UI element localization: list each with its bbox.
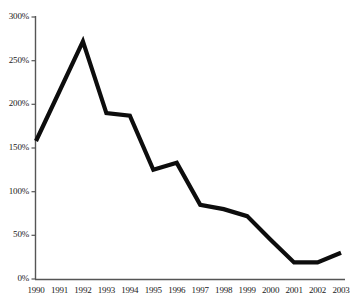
data-series-line: [36, 41, 341, 262]
y-axis-tick-label: 100%: [0, 187, 29, 196]
y-axis-tick-label: 150%: [0, 143, 29, 152]
series-group: [36, 41, 341, 262]
axes-group: [35, 16, 345, 280]
y-axis-tick-label: 250%: [0, 56, 29, 65]
y-axis-tick-label: 300%: [0, 12, 29, 21]
y-axis-tick-label: 200%: [0, 99, 29, 108]
x-axis-tick-label: 2003: [324, 286, 354, 295]
y-axis-tick-label: 0%: [0, 274, 29, 283]
y-axis-tick-label: 50%: [0, 230, 29, 239]
